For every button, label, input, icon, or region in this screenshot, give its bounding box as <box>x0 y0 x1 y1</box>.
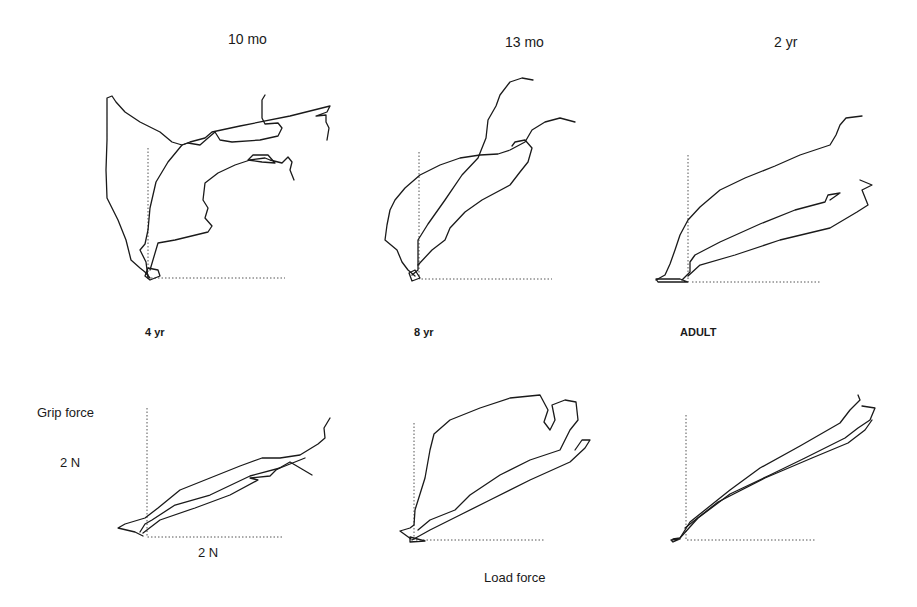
panel-8yr <box>400 395 590 542</box>
panel-4yr <box>118 408 330 537</box>
trajectory-plots <box>0 0 917 607</box>
panel-adult <box>671 395 875 542</box>
panel-10mo <box>106 95 330 280</box>
panel-2yr <box>656 116 872 282</box>
panel-13mo <box>385 78 575 281</box>
